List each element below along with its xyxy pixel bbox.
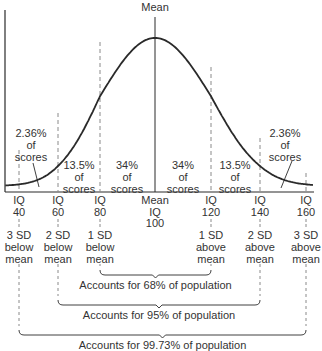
tail-pointer-left — [33, 163, 39, 187]
sd-label-iq-120: 1 SD above mean — [191, 229, 231, 265]
x-tick-label-iq-40: IQ 40 — [0, 195, 39, 218]
bracket-95-percent — [58, 300, 260, 308]
sd-label-iq-40: 3 SD below mean — [0, 229, 39, 265]
sd-label-iq-80: 1 SD below mean — [80, 229, 120, 265]
sd-label-iq-160: 3 SD above mean — [286, 229, 322, 265]
x-tick-label-iq-140: IQ 140 — [240, 195, 280, 218]
tail-pointer-right — [281, 161, 292, 188]
bracket-label-95-percent: Accounts for 95% of population — [59, 309, 259, 321]
bracket-68-percent — [100, 270, 211, 278]
sd-label-iq-60: 2 SD below mean — [38, 229, 78, 265]
bracket-99.73-percent — [19, 330, 306, 338]
x-tick-label-iq-80: IQ 80 — [80, 195, 120, 218]
region-label-80-100: 34% of scores — [103, 159, 151, 195]
region-label-140-160: 2.36% of scores — [261, 127, 309, 163]
sd-label-iq-140: 2 SD above mean — [240, 229, 280, 265]
x-tick-label-iq-100: Mean IQ 100 — [135, 195, 175, 230]
bracket-label-99.73-percent: Accounts for 99.73% of population — [63, 339, 263, 351]
region-label-100-120: 34% of scores — [159, 159, 207, 195]
bracket-label-68-percent: Accounts for 68% of population — [56, 279, 256, 291]
region-label-60-80: 13.5% of scores — [55, 159, 103, 195]
x-tick-label-iq-120: IQ 120 — [191, 195, 231, 218]
x-tick-label-iq-160: IQ 160 — [286, 195, 322, 218]
region-label-40-60: 2.36% of scores — [7, 127, 55, 163]
x-tick-label-iq-60: IQ 60 — [38, 195, 78, 218]
mean-title: Mean — [141, 1, 169, 13]
region-label-120-140: 13.5% of scores — [211, 159, 259, 195]
